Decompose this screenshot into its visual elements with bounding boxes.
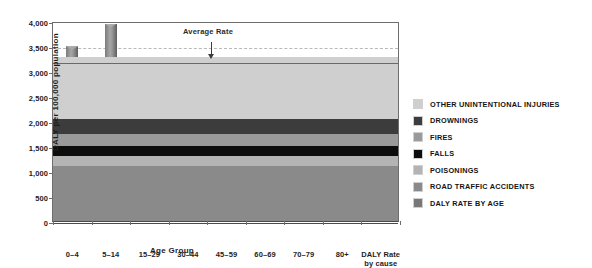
stack-segment: [53, 146, 398, 156]
legend-swatch: [413, 149, 423, 159]
legend-item: POISONINGS: [413, 162, 560, 179]
legend-item: FIRES: [413, 129, 560, 146]
legend-swatch: [413, 182, 423, 192]
bar-top-bevel: [105, 24, 117, 28]
stack-segment: [53, 119, 398, 134]
legend-label: DROWNINGS: [430, 116, 478, 125]
legend-item: DALY RATE BY AGE: [413, 195, 560, 212]
legend-label: DALY RATE BY AGE: [430, 199, 504, 208]
y-axis-tick-label: 2,000: [29, 119, 48, 128]
x-axis-tick-mark: [92, 221, 93, 225]
y-axis-tick-mark: [49, 198, 53, 199]
y-axis-tick-mark: [49, 23, 53, 24]
legend-swatch: [413, 198, 423, 208]
y-axis-tick-label: 0: [44, 219, 48, 228]
legend-item: OTHER UNINTENTIONAL INJURIES: [413, 96, 560, 113]
legend-swatch: [413, 99, 423, 109]
y-axis-tick-label: 500: [35, 194, 48, 203]
y-axis-tick-label: 1,000: [29, 169, 48, 178]
x-axis-tick-mark: [246, 221, 247, 225]
x-axis-tick-mark: [323, 221, 324, 225]
legend-item: ROAD TRAFFIC ACCIDENTS: [413, 179, 560, 196]
x-axis-tick-mark: [169, 221, 170, 225]
legend-label: FIRES: [430, 133, 453, 142]
y-axis-tick-label: 3,000: [29, 69, 48, 78]
y-axis-tick-label: 3,500: [29, 44, 48, 53]
y-axis-tick-label: 4,000: [29, 19, 48, 28]
stack-segment: [53, 156, 398, 166]
x-axis-tick-label: 80+: [336, 250, 349, 259]
stack-segment: [53, 57, 398, 119]
x-axis-tick-mark: [53, 221, 54, 225]
average-rate-line: [53, 63, 398, 64]
x-axis-tick-mark: [361, 221, 362, 225]
x-axis-tick-label-by-cause: DALY Rateby cause: [361, 250, 400, 268]
x-axis-tick-mark: [284, 221, 285, 225]
axis-zero-line: [53, 223, 398, 224]
x-axis-tick-label: 45–59: [216, 250, 237, 259]
y-axis-tick-label: 2,500: [29, 94, 48, 103]
legend-label: OTHER UNINTENTIONAL INJURIES: [430, 100, 560, 109]
x-axis-tick-mark: [207, 221, 208, 225]
legend-swatch: [413, 132, 423, 142]
x-axis-tick-mark: [130, 221, 131, 225]
y-axis-tick-label: 1,500: [29, 144, 48, 153]
legend-swatch: [413, 165, 423, 175]
x-axis-tick-label: 70–79: [293, 250, 314, 259]
bar-top-bevel: [66, 46, 78, 50]
y-axis-label: DALY per 100,000 population: [51, 33, 60, 151]
stack-segment: [53, 134, 398, 146]
legend-item: DROWNINGS: [413, 113, 560, 130]
legend-label: ROAD TRAFFIC ACCIDENTS: [430, 182, 535, 191]
x-axis-tick-label: 0–4: [66, 250, 79, 259]
legend-item: FALLS: [413, 146, 560, 163]
y-axis-tick-mark: [49, 173, 53, 174]
plot-area: Average Rate 05001,0001,5002,0002,5003,0…: [52, 22, 399, 222]
x-axis-tick-sublabel: by cause: [361, 259, 400, 268]
average-rate-label: Average Rate: [183, 27, 233, 36]
stack-segment: [53, 166, 398, 221]
x-axis-tick-label: 60–69: [254, 250, 275, 259]
x-axis-tick-mark: [400, 221, 401, 225]
legend-swatch: [413, 116, 423, 126]
chart-legend: OTHER UNINTENTIONAL INJURIESDROWNINGSFIR…: [413, 96, 560, 212]
x-axis-label: Age Group: [150, 246, 194, 255]
x-axis-tick-label: 5–14: [102, 250, 119, 259]
legend-label: POISONINGS: [430, 166, 479, 175]
legend-label: FALLS: [430, 149, 454, 158]
